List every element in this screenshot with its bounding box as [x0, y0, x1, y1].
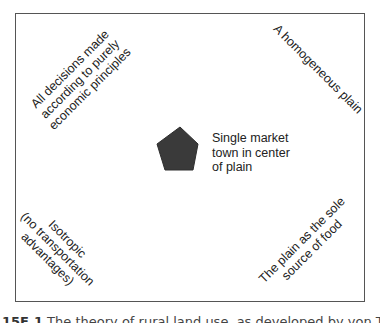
figure-number: 15E.1 [2, 314, 43, 323]
figure-caption: 15E.1 The theory of rural land use, as d… [2, 314, 380, 323]
caption-text: The theory of rural land use, as develop… [47, 314, 380, 323]
label-line: of plain [212, 160, 290, 175]
label-line: Single market [212, 131, 290, 146]
market-town-pentagon-icon [0, 0, 380, 323]
label-line: town in center [212, 146, 290, 161]
market-town-label: Single market town in center of plain [212, 131, 290, 175]
